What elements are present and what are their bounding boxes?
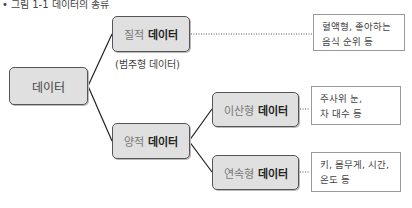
continuous-suffix: 데이터 — [258, 165, 288, 181]
node-quantitative-data: 양적 데이터 — [112, 123, 190, 159]
node-data: 데이터 — [9, 67, 88, 105]
continuous-prefix: 연속형 — [224, 165, 254, 181]
categorical-note: (범주형 데이터) — [115, 56, 180, 71]
node-continuous-data: 연속형 데이터 — [212, 155, 299, 190]
discrete-prefix: 이산형 — [224, 102, 254, 118]
quantitative-prefix: 양적 — [124, 133, 144, 149]
qualitative-suffix: 데이터 — [148, 26, 178, 42]
discrete-example-box: 주사위 눈, 차 대수 등 — [311, 86, 401, 125]
discrete-suffix: 데이터 — [258, 102, 288, 118]
quantitative-suffix: 데이터 — [148, 133, 178, 149]
qualitative-example-box: 혈액형, 좋아하는 음식 순위 등 — [313, 14, 405, 51]
node-data-label: 데이터 — [32, 78, 65, 95]
continuous-example-box: 키, 몸무게, 시간, 온도 등 — [311, 152, 401, 192]
node-qualitative-data: 질적 데이터 — [112, 16, 190, 52]
qualitative-prefix: 질적 — [124, 26, 144, 42]
node-discrete-data: 이산형 데이터 — [212, 92, 299, 127]
